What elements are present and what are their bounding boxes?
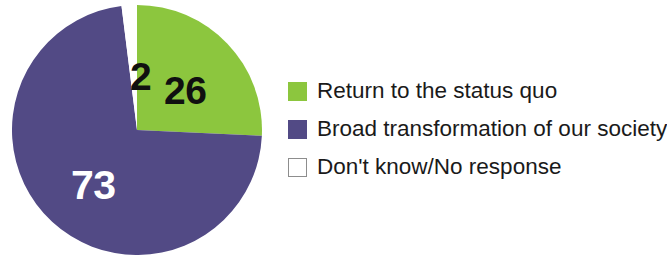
pie-chart-graphic: 2 26 73	[12, 5, 262, 255]
pie-label-status-quo-value: 26	[164, 71, 206, 110]
pie-label-transformation-value: 73	[71, 165, 116, 206]
legend-label-return-to-status-quo: Return to the status quo	[317, 80, 557, 103]
pie-svg	[12, 5, 262, 255]
chart-legend: Return to the status quo Broad transform…	[288, 79, 667, 179]
legend-swatch-white-icon	[288, 158, 307, 177]
legend-item-dont-know[interactable]: Don't know/No response	[288, 155, 667, 179]
pie-label-dont-know-value: 2	[130, 57, 151, 96]
legend-swatch-green-icon	[288, 82, 307, 101]
legend-label-dont-know: Don't know/No response	[317, 156, 561, 179]
legend-item-return-to-status-quo[interactable]: Return to the status quo	[288, 79, 667, 103]
legend-swatch-purple-icon	[288, 120, 307, 139]
legend-item-broad-transformation[interactable]: Broad transformation of our society	[288, 117, 667, 141]
legend-label-broad-transformation: Broad transformation of our society	[317, 118, 667, 141]
